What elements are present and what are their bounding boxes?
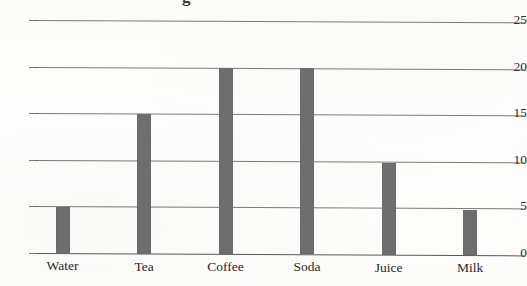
plot-area: 2520151050WaterTeaCoffeeSodaJuiceMilk — [0, 0, 527, 286]
y-tick-mark-20 — [29, 67, 38, 68]
chart-page: g 2520151050WaterTeaCoffeeSodaJuiceMilk — [0, 0, 527, 286]
y-tick-mark-5 — [29, 206, 38, 207]
bar-soda[interactable] — [300, 68, 314, 254]
gridline-0 — [36, 253, 525, 256]
bar-juice[interactable] — [382, 163, 396, 254]
y-axis-label-0: 0 — [501, 246, 527, 260]
bar-water[interactable] — [56, 207, 70, 254]
y-axis-label-20: 20 — [501, 60, 527, 74]
gridline-20 — [36, 67, 525, 70]
x-axis-label-milk: Milk — [457, 261, 483, 276]
gridline-10 — [36, 160, 525, 163]
gridline-5 — [36, 206, 525, 209]
x-axis-label-water: Water — [47, 259, 79, 274]
x-axis-label-juice: Juice — [375, 261, 403, 276]
gridline-25 — [36, 20, 525, 23]
y-axis-label-5: 5 — [501, 199, 527, 213]
bar-milk[interactable] — [463, 210, 477, 255]
y-axis-label-15: 15 — [501, 106, 527, 120]
y-axis-label-25: 25 — [501, 13, 527, 27]
y-tick-mark-25 — [29, 20, 38, 21]
x-axis-label-tea: Tea — [134, 260, 153, 275]
x-axis-label-coffee: Coffee — [207, 260, 244, 275]
x-axis-label-soda: Soda — [294, 260, 321, 275]
y-tick-mark-15 — [29, 113, 38, 114]
bar-coffee[interactable] — [219, 68, 233, 254]
gridline-15 — [36, 113, 525, 116]
y-axis-label-10: 10 — [501, 153, 527, 167]
y-tick-mark-10 — [29, 160, 38, 161]
bar-tea[interactable] — [137, 114, 151, 254]
y-tick-mark-0 — [29, 253, 38, 254]
